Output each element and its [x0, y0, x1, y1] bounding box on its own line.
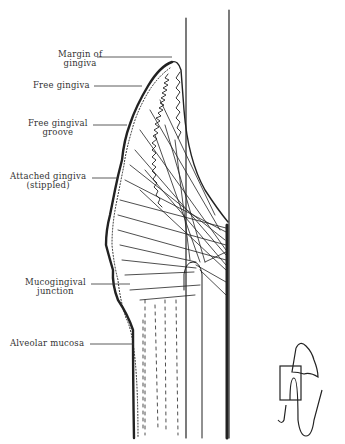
alveolar-bone-texture [143, 300, 178, 435]
sulcular-epithelium [176, 72, 181, 138]
gingival-fibers [118, 100, 226, 300]
epithelial-ridges [152, 74, 169, 207]
label-free-gingival-groove: Free gingivalgroove [28, 119, 88, 137]
gingiva-outer-contour [106, 62, 172, 438]
label-free-gingiva: Free gingiva [33, 81, 90, 90]
alveolar-crest [184, 262, 202, 438]
label-alveolar-mucosa: Alveolar mucosa [10, 339, 84, 348]
stippled-band [112, 68, 170, 438]
tooth-orientation-inset [278, 343, 322, 436]
label-attached-gingiva: Attached gingiva(stippled) [10, 172, 86, 190]
label-margin-of-gingiva: Margin ofgingiva [58, 50, 102, 68]
gingiva-diagram [0, 0, 345, 444]
label-mucogingival-junction: Mucogingivaljunction [25, 278, 86, 296]
